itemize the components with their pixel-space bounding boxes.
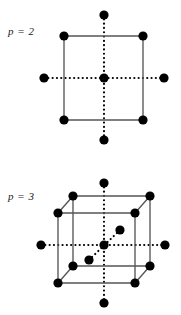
node-axis-back-depth xyxy=(115,225,124,234)
node-axis-bottom xyxy=(99,298,108,307)
panel-p2-graphic xyxy=(39,10,168,144)
node-top-left xyxy=(59,31,68,40)
node-front-bottom-right xyxy=(130,278,139,287)
lattice-stencil-figure: p = 2 p = 3 xyxy=(0,0,181,315)
node-back-top-left xyxy=(68,191,77,200)
panel-label-p2: p = 2 xyxy=(8,25,34,37)
node-bottom-left xyxy=(59,115,68,124)
node-axis-right xyxy=(160,240,169,249)
node-center xyxy=(99,73,108,82)
node-front-bottom-left xyxy=(53,278,62,287)
node-axis-bottom xyxy=(99,135,108,144)
node-bottom-right xyxy=(138,115,147,124)
node-axis-top xyxy=(99,10,108,19)
node-back-top-right xyxy=(145,191,154,200)
stencil-diagram-canvas xyxy=(0,0,181,315)
panel-p3-graphic xyxy=(36,178,169,307)
node-front-top-right xyxy=(130,208,139,217)
node-center xyxy=(99,240,108,249)
node-axis-right xyxy=(159,73,168,82)
node-axis-left xyxy=(39,73,48,82)
node-axis-top xyxy=(99,178,108,187)
node-front-top-left xyxy=(53,208,62,217)
node-back-bottom-left xyxy=(68,261,77,270)
node-axis-left xyxy=(36,240,45,249)
panel-label-p3: p = 3 xyxy=(8,190,34,202)
node-axis-front-depth xyxy=(84,255,93,264)
node-top-right xyxy=(138,31,147,40)
node-back-bottom-right xyxy=(145,261,154,270)
